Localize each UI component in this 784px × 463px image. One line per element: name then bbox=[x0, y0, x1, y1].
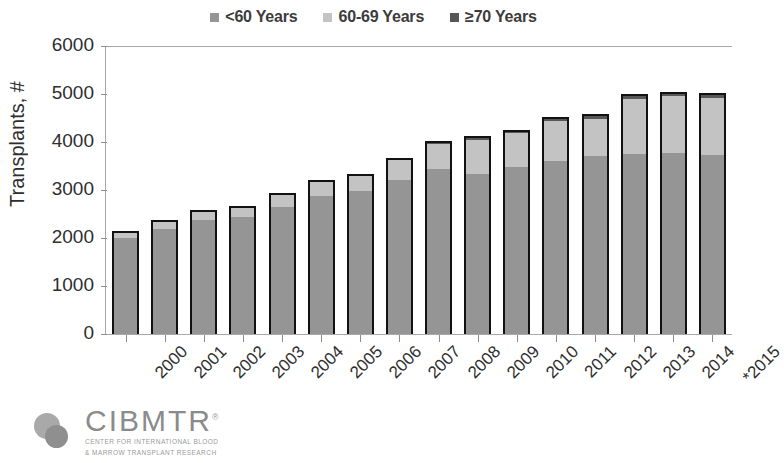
bar-slot bbox=[229, 46, 256, 334]
x-axis-label-2011: 2011 bbox=[581, 342, 621, 382]
x-tick-mark bbox=[712, 335, 713, 342]
table-row[interactable] bbox=[542, 117, 569, 334]
x-axis-label-2010: 2010 bbox=[542, 342, 583, 383]
bar-slot bbox=[503, 46, 530, 334]
x-axis-label-2012: 2012 bbox=[620, 342, 661, 383]
bar-series-container bbox=[106, 46, 732, 334]
x-axis-label-2003: 2003 bbox=[268, 342, 309, 383]
table-row[interactable] bbox=[229, 206, 256, 334]
bar-slot bbox=[621, 46, 648, 334]
x-tick-mark bbox=[360, 335, 361, 342]
bar-segment-60-69 bbox=[151, 222, 178, 229]
cibmtr-subtitle-line2: & MARROW TRANSPLANT RESEARCH bbox=[85, 449, 221, 458]
bar-segment-lt60 bbox=[699, 155, 726, 334]
table-row[interactable] bbox=[699, 93, 726, 334]
x-tick-mark bbox=[126, 335, 127, 342]
bar-segment-lt60 bbox=[386, 180, 413, 334]
table-row[interactable] bbox=[151, 220, 178, 334]
x-tick-mark bbox=[439, 335, 440, 342]
x-axis-label-2004: 2004 bbox=[307, 342, 348, 383]
x-tick-mark bbox=[673, 335, 674, 342]
table-row[interactable] bbox=[503, 130, 530, 334]
bar-segment-lt60 bbox=[190, 220, 217, 334]
x-axis-label-2001: 2001 bbox=[190, 342, 231, 383]
x-axis-labels: 2000200120022003200420052006200720082009… bbox=[106, 342, 732, 400]
table-row[interactable] bbox=[190, 210, 217, 334]
table-row[interactable] bbox=[582, 114, 609, 334]
bar-segment-60-69 bbox=[269, 195, 296, 207]
bar-slot bbox=[425, 46, 452, 334]
legend-item-a6069: 60-69 Years bbox=[323, 8, 424, 26]
bar-segment-lt60 bbox=[660, 153, 687, 334]
bar-segment-lt60 bbox=[112, 238, 139, 334]
bar-segment-lt60 bbox=[621, 154, 648, 334]
bar-segment-60-69 bbox=[190, 212, 217, 220]
y-tick-label: 4000 bbox=[52, 130, 94, 152]
bar-segment-lt60 bbox=[229, 217, 256, 334]
cibmtr-subtitle-line1: CENTER FOR INTERNATIONAL BLOOD bbox=[85, 438, 221, 447]
x-tick-mark bbox=[204, 335, 205, 342]
bar-segment-lt60 bbox=[503, 167, 530, 334]
chart-legend: <60 Years60-69 Years≥70 Years bbox=[0, 8, 747, 26]
table-row[interactable] bbox=[308, 180, 335, 334]
x-axis-label-2007: 2007 bbox=[425, 342, 466, 383]
x-tick-mark bbox=[282, 335, 283, 342]
table-row[interactable] bbox=[112, 231, 139, 334]
x-tick-mark bbox=[556, 335, 557, 342]
x-tick-mark bbox=[595, 335, 596, 342]
bar-segment-60-69 bbox=[464, 140, 491, 174]
bar-slot bbox=[699, 46, 726, 334]
y-tick-label: 5000 bbox=[52, 82, 94, 104]
bar-slot bbox=[151, 46, 178, 334]
bar-segment-60-69 bbox=[582, 119, 609, 157]
bar-slot bbox=[582, 46, 609, 334]
table-row[interactable] bbox=[425, 141, 452, 334]
bar-segment-60-69 bbox=[542, 121, 569, 161]
table-row[interactable] bbox=[660, 92, 687, 334]
bar-slot bbox=[190, 46, 217, 334]
bar-segment-60-69 bbox=[425, 144, 452, 169]
x-axis-label-2000: 2000 bbox=[151, 342, 192, 383]
legend-swatch-ge70 bbox=[450, 13, 459, 22]
table-row[interactable] bbox=[347, 174, 374, 334]
cibmtr-wordmark: CIBMTR® bbox=[85, 406, 221, 436]
bar-segment-lt60 bbox=[425, 169, 452, 334]
cibmtr-logo-circles-icon bbox=[34, 411, 78, 453]
bar-segment-lt60 bbox=[582, 156, 609, 334]
table-row[interactable] bbox=[269, 193, 296, 334]
bar-segment-lt60 bbox=[542, 161, 569, 334]
x-tick-mark bbox=[243, 335, 244, 342]
bar-slot bbox=[308, 46, 335, 334]
x-axis-label-2008: 2008 bbox=[464, 342, 505, 383]
bar-slot bbox=[386, 46, 413, 334]
x-axis-label-2013: 2013 bbox=[659, 342, 700, 383]
plot-area: 6000500040003000200010000 bbox=[106, 46, 732, 334]
bar-segment-lt60 bbox=[308, 196, 335, 334]
table-row[interactable] bbox=[386, 158, 413, 334]
x-axis-label-2005: 2005 bbox=[346, 342, 387, 383]
bar-segment-60-69 bbox=[386, 160, 413, 180]
y-tick-label: 6000 bbox=[52, 34, 94, 56]
bar-segment-60-69 bbox=[347, 176, 374, 191]
x-tick-mark bbox=[478, 335, 479, 342]
y-tick-label: 3000 bbox=[52, 178, 94, 200]
cibmtr-trademark: ® bbox=[212, 412, 221, 422]
y-axis-title-text: Transplants, # bbox=[6, 81, 29, 207]
x-axis-label-star2015: *2015 bbox=[739, 342, 784, 388]
bar-segment-lt60 bbox=[464, 174, 491, 334]
bar-slot bbox=[112, 46, 139, 334]
x-axis-label-2002: 2002 bbox=[229, 342, 270, 383]
bar-slot bbox=[464, 46, 491, 334]
x-axis-label-2014: 2014 bbox=[698, 342, 739, 383]
table-row[interactable] bbox=[621, 94, 648, 334]
table-row[interactable] bbox=[464, 136, 491, 334]
bar-slot bbox=[542, 46, 569, 334]
legend-item-ge70: ≥70 Years bbox=[450, 8, 537, 26]
bar-segment-60-69 bbox=[503, 133, 530, 167]
bar-segment-60-69 bbox=[308, 182, 335, 196]
x-tick-mark bbox=[517, 335, 518, 342]
y-tick-label: 0 bbox=[83, 322, 94, 344]
cibmtr-wordmark-text: CIBMTR bbox=[85, 404, 212, 437]
y-axis-title: Transplants, # bbox=[4, 0, 30, 288]
x-tick-mark bbox=[165, 335, 166, 342]
